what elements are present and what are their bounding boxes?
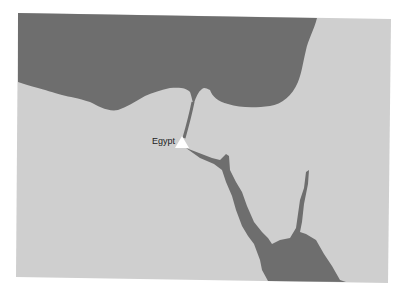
map-canvas bbox=[0, 0, 406, 296]
marker-label-egypt: Egypt bbox=[152, 136, 175, 146]
